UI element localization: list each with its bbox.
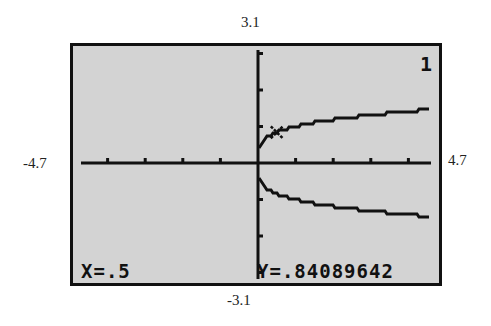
calculator-graph-screen: 1 X=.5 Y=.84089642 bbox=[70, 43, 442, 286]
graph-plot bbox=[73, 46, 439, 283]
ymin-label: -3.1 bbox=[227, 292, 251, 309]
xmin-label: -4.7 bbox=[23, 155, 47, 172]
ymax-label: 3.1 bbox=[241, 14, 260, 31]
lower-curve bbox=[259, 178, 429, 217]
trace-y-value: Y=.84089642 bbox=[257, 260, 394, 282]
equation-number: 1 bbox=[420, 52, 433, 76]
xmax-label: 4.7 bbox=[448, 152, 467, 169]
trace-x-value: X=.5 bbox=[81, 260, 131, 282]
upper-curve bbox=[259, 109, 429, 148]
